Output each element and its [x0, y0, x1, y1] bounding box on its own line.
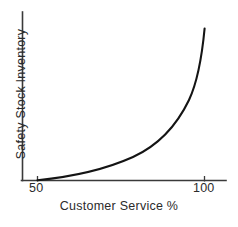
- y-axis-title-wrapper: Safety Stock Inventory: [14, 9, 32, 179]
- x-axis-title: Customer Service %: [0, 199, 238, 213]
- x-tick-label-50: 50: [29, 181, 43, 195]
- chart-figure: 50 100 Customer Service % Safety Stock I…: [0, 0, 238, 227]
- x-tick-label-100: 100: [193, 181, 214, 195]
- y-axis-title: Safety Stock Inventory: [14, 9, 28, 179]
- data-curve-safety-stock: [38, 29, 205, 181]
